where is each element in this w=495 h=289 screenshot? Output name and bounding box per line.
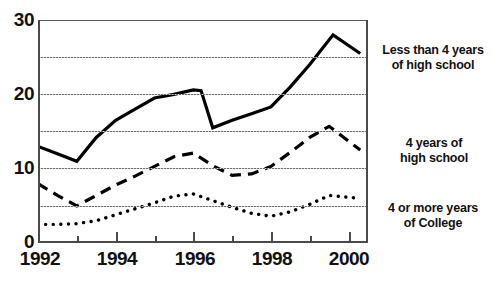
series-label-4-or-more-years-college: 4 or more years of College	[373, 201, 493, 230]
plot-right-border	[366, 20, 368, 243]
x-tick-1994	[116, 232, 118, 243]
x-tick-2000	[349, 232, 351, 243]
x-tick-1998	[271, 232, 273, 243]
x-tick-label: 2000	[329, 248, 369, 270]
y-tick-label: 20	[0, 84, 34, 103]
chart-title-cutoff	[28, 0, 238, 4]
plot-area	[38, 20, 368, 243]
gridline-20	[38, 94, 368, 95]
x-tick-1993	[77, 236, 79, 243]
gridline-30	[38, 20, 368, 21]
x-tick-1996	[193, 232, 195, 243]
x-tick-label: 1992	[20, 248, 60, 270]
x-tick-label: 1994	[97, 248, 137, 270]
y-axis-labels: 30 20 10 0	[0, 20, 34, 243]
series-line-less-than-4-years-high-school	[38, 35, 360, 161]
x-axis-line	[38, 241, 368, 243]
gridline-25	[38, 57, 368, 58]
chart-figure: 30 20 10 0 1992 1994 1	[0, 0, 495, 289]
gridline-10	[38, 168, 368, 169]
x-tick-1992	[38, 232, 40, 243]
x-tick-1999	[310, 236, 312, 243]
x-axis-labels: 1992 1994 1996 1998 2000	[38, 248, 368, 276]
x-tick-label: 1996	[175, 248, 215, 270]
y-axis-line	[38, 20, 40, 243]
y-tick-label: 30	[0, 10, 34, 29]
series-line-4-or-more-years-college	[38, 194, 360, 224]
x-tick-1997	[232, 236, 234, 243]
series-label-4-years-high-school: 4 years of high school	[378, 136, 490, 165]
series-label-less-than-4-years-high-school: Less than 4 years of high school	[373, 43, 493, 72]
gridline-5	[38, 206, 368, 207]
x-tick-1995	[155, 236, 157, 243]
x-tick-label: 1998	[252, 248, 292, 270]
series-line-4-years-high-school	[38, 126, 360, 206]
gridline-15	[38, 131, 368, 132]
y-tick-label: 10	[0, 158, 34, 177]
